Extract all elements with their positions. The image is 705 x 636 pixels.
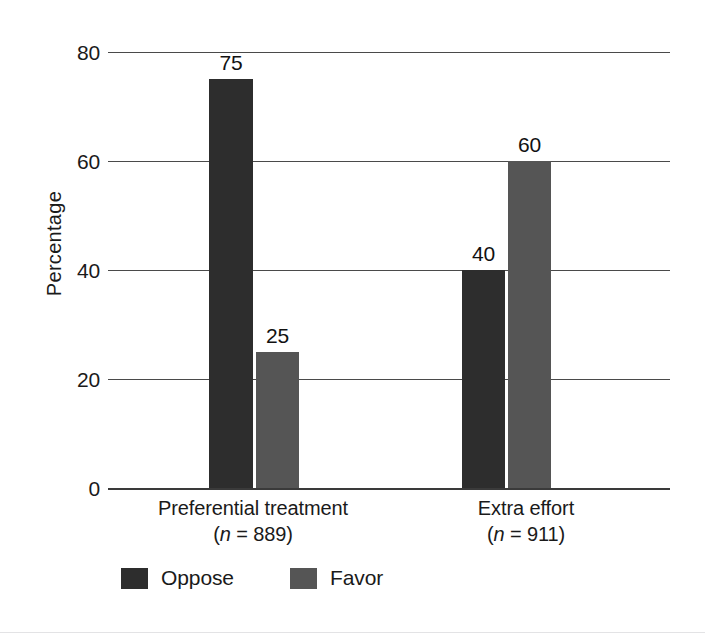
legend-item-favor[interactable]: Favor [290,566,383,590]
category-label-preferential-treatment: Preferential treatment (n = 889) [145,496,361,547]
gridline-40 [108,270,670,271]
y-tick-label-80: 80 [56,42,100,63]
legend-item-oppose[interactable]: Oppose [121,566,234,590]
chart-legend: Oppose Favor [121,566,383,590]
x-axis-baseline [108,488,670,490]
bar-value-label: 60 [518,133,541,157]
n-value: = 889) [231,523,293,545]
gridline-80 [108,52,670,53]
y-tick-label-20: 20 [56,369,100,390]
category-name: Preferential treatment [158,497,348,519]
y-axis-tick-labels: 80 60 40 20 0 [52,52,100,488]
bar-preferential-treatment-oppose[interactable]: 75 [209,79,253,488]
bar-value-label: 75 [220,51,243,75]
legend-label-oppose: Oppose [161,566,234,590]
bottom-divider [0,632,705,633]
y-tick-label-40: 40 [56,260,100,281]
n-symbol: n [493,523,504,545]
n-symbol: n [220,523,231,545]
gridline-20 [108,379,670,380]
legend-swatch-oppose [121,568,148,589]
bar-value-label: 40 [472,242,495,266]
category-sample-size: (n = 889) [145,522,361,548]
bar-value-label: 25 [266,324,289,348]
category-label-extra-effort: Extra effort (n = 911) [418,496,634,547]
plot-area: 75 25 40 60 [108,52,670,488]
gridline-60 [108,161,670,162]
category-sample-size: (n = 911) [418,522,634,548]
chart-figure: Percentage 80 60 40 20 0 75 25 40 [0,0,705,636]
legend-label-favor: Favor [330,566,383,590]
category-name: Extra effort [478,497,574,519]
bar-preferential-treatment-favor[interactable]: 25 [256,352,299,488]
n-value: = 911) [504,523,565,545]
bar-extra-effort-favor[interactable]: 60 [508,161,551,488]
y-tick-label-0: 0 [56,478,100,499]
y-tick-label-60: 60 [56,151,100,172]
bar-extra-effort-oppose[interactable]: 40 [462,270,505,488]
legend-swatch-favor [290,568,317,589]
